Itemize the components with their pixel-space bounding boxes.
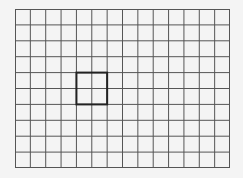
grid-lines [15, 9, 230, 168]
grid-diagram [15, 9, 230, 168]
